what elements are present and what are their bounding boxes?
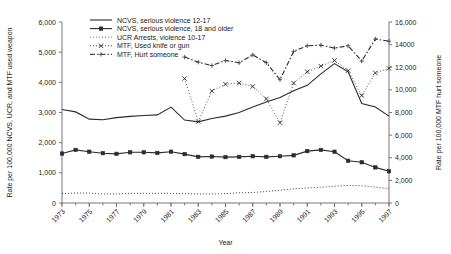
series-marker (387, 170, 390, 173)
series-marker (251, 155, 254, 158)
y-tick-label-right: 16,000 (395, 19, 417, 26)
y-tick-label-right: 14000 (395, 41, 415, 48)
legend-item-label: NCVS, serious violence, 18 and older (117, 25, 234, 32)
series-marker (156, 151, 159, 154)
y-axis-title-right: Rate per 100,000 MTF hurt someone (435, 55, 443, 170)
y-axis-title-left: Rate per 100,000 NCVS, UCR, and MTF used… (6, 27, 14, 197)
series-marker (319, 148, 322, 151)
y-tick-label-left: 3,000 (38, 109, 56, 116)
legend-item-label: NCVS, serious violence 12-17 (117, 17, 210, 24)
legend-item-label: UCR Arrests, violence 10-17 (117, 34, 205, 41)
series-marker (374, 166, 377, 169)
series-marker (210, 155, 213, 158)
y-tick-label-right: 8,000 (395, 109, 413, 116)
x-axis-title: Year (218, 239, 233, 246)
series-marker (333, 150, 336, 153)
legend-swatch-marker (99, 27, 102, 30)
dual-axis-line-chart: NCVS, serious violence 12-17NCVS, seriou… (0, 0, 451, 254)
series-marker (306, 149, 309, 152)
series-marker (115, 152, 118, 155)
y-tick-label-right: 4,000 (395, 154, 413, 161)
series-marker (74, 148, 77, 151)
y-tick-label-left: 4,000 (38, 79, 56, 86)
y-tick-label-left: 5,000 (38, 49, 56, 56)
y-tick-label-left: 2,000 (38, 139, 56, 146)
series-marker (265, 155, 268, 158)
series-marker (346, 159, 349, 162)
y-tick-label-right: 12,000 (395, 64, 417, 71)
y-tick-label-left: 1,000 (38, 169, 56, 176)
series-marker (292, 154, 295, 157)
y-tick-label-right: 0 (395, 200, 399, 207)
series-marker (237, 155, 240, 158)
legend-item-label: MTF, Hurt someone (117, 51, 179, 58)
series-marker (224, 155, 227, 158)
series-marker (101, 152, 104, 155)
series-marker (197, 155, 200, 158)
series-marker (183, 152, 186, 155)
series-marker (169, 150, 172, 153)
series-marker (278, 155, 281, 158)
y-tick-label-right: 2,000 (395, 177, 413, 184)
y-tick-label-left: 0 (52, 200, 56, 207)
series-marker (88, 150, 91, 153)
series-marker (128, 151, 131, 154)
y-tick-label-right: 6,000 (395, 132, 413, 139)
series-marker (360, 161, 363, 164)
series-marker (60, 152, 63, 155)
series-marker (142, 151, 145, 154)
chart-container: NCVS, serious violence 12-17NCVS, seriou… (0, 0, 451, 254)
y-tick-label-left: 6,000 (38, 19, 56, 26)
y-tick-label-right: 10,000 (395, 86, 417, 93)
legend-item-label: MTF, Used knife or gun (117, 42, 189, 50)
